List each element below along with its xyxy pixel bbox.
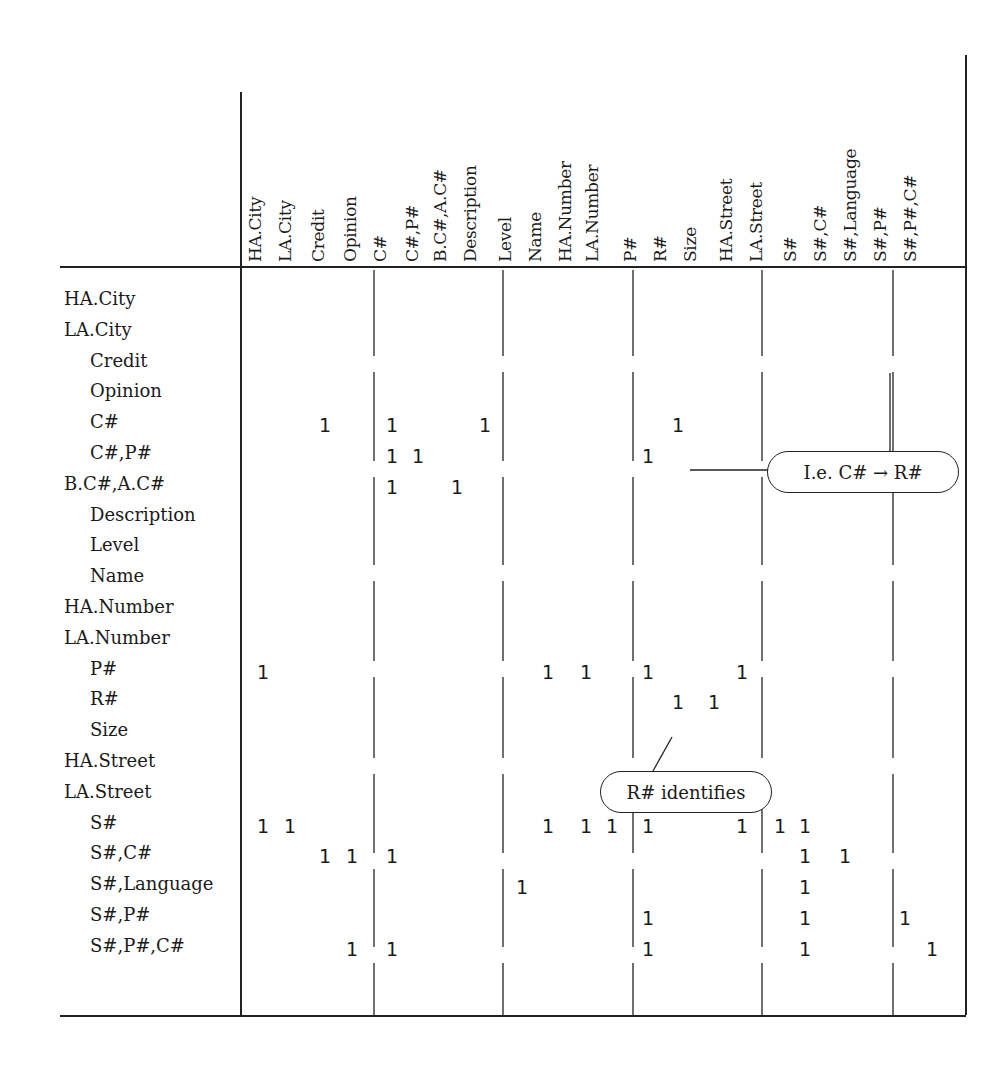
column-header-label: HA.Number: [557, 161, 574, 262]
matrix-cell-one: 1: [736, 816, 748, 835]
matrix-cell-one: 1: [899, 909, 911, 928]
column-header: HA.Street: [712, 0, 740, 262]
matrix-cell-one: 1: [799, 878, 811, 897]
header-bottom-rule: [60, 266, 966, 268]
matrix-cell-one: 1: [451, 477, 463, 496]
column-header: LA.Street: [742, 0, 770, 262]
row-label: HA.City: [64, 290, 135, 308]
column-header: C#: [366, 0, 394, 262]
matrix-cell-one: 1: [319, 416, 331, 435]
matrix-cell-one: 1: [386, 939, 398, 958]
row-label: S#,P#,C#: [90, 937, 185, 955]
matrix-cell-one: 1: [516, 878, 528, 897]
column-header-label: S#,P#,C#: [902, 175, 919, 262]
column-header: LA.City: [271, 0, 299, 262]
row-label: P#: [90, 660, 117, 678]
matrix-cell-one: 1: [580, 816, 592, 835]
matrix-cell-one: 1: [672, 693, 684, 712]
row-label: S#,P#: [90, 906, 150, 924]
matrix-cell-one: 1: [412, 447, 424, 466]
matrix-cell-one: 1: [580, 662, 592, 681]
matrix-cell-one: 1: [346, 939, 358, 958]
matrix-cell-one: 1: [319, 847, 331, 866]
column-header-label: S#,C#: [812, 205, 829, 262]
row-label: C#,P#: [90, 444, 152, 462]
row-label: LA.Number: [64, 629, 170, 647]
column-header-label: Credit: [310, 209, 327, 262]
matrix-cell-one: 1: [799, 909, 811, 928]
right-border: [965, 55, 967, 1015]
bottom-rule: [60, 1015, 966, 1017]
matrix-cell-one: 1: [386, 477, 398, 496]
column-header: Opinion: [336, 0, 364, 262]
matrix-cell-one: 1: [284, 816, 296, 835]
column-header-label: LA.Street: [748, 182, 765, 262]
column-header-label: Level: [497, 217, 514, 262]
column-header: S#,C#: [806, 0, 834, 262]
row-label: LA.City: [64, 321, 132, 339]
column-header-label: S#,Language: [842, 149, 859, 262]
column-header-label: Opinion: [342, 196, 359, 262]
matrix-cell-one: 1: [346, 847, 358, 866]
matrix-cell-one: 1: [386, 847, 398, 866]
row-label: HA.Number: [64, 598, 174, 616]
matrix-cell-one: 1: [386, 416, 398, 435]
dependency-matrix: HA.CityLA.CityCreditOpinionC#C#,P#B.C#,A…: [0, 0, 1005, 1068]
column-header: S#: [776, 0, 804, 262]
matrix-cell-one: 1: [257, 662, 269, 681]
row-label: S#,Language: [90, 875, 213, 893]
column-header-label: P#: [622, 237, 639, 262]
column-header-label: S#,P#: [872, 207, 889, 262]
matrix-cell-one: 1: [736, 662, 748, 681]
column-header-label: C#: [372, 235, 389, 262]
column-header: Credit: [304, 0, 332, 262]
row-label: Opinion: [90, 382, 162, 400]
column-header: B.C#,A.C#: [426, 0, 454, 262]
column-header: S#,P#,C#: [896, 0, 924, 262]
matrix-cell-one: 1: [926, 939, 938, 958]
matrix-cell-one: 1: [542, 816, 554, 835]
column-header-label: B.C#,A.C#: [432, 169, 449, 262]
matrix-cell-one: 1: [799, 939, 811, 958]
row-label: Name: [90, 567, 144, 585]
column-header: Level: [491, 0, 519, 262]
column-header-label: S#: [782, 237, 799, 262]
column-header: C#,P#: [398, 0, 426, 262]
column-header: Size: [676, 0, 704, 262]
column-header: P#: [616, 0, 644, 262]
row-label: Description: [90, 506, 196, 524]
column-header-label: R#: [652, 236, 669, 262]
matrix-cell-one: 1: [642, 662, 654, 681]
row-label: S#,C#: [90, 844, 152, 862]
column-header: Name: [521, 0, 549, 262]
column-header-label: LA.City: [277, 200, 294, 262]
row-label: B.C#,A.C#: [64, 475, 165, 493]
matrix-cell-one: 1: [642, 447, 654, 466]
matrix-cell-one: 1: [799, 816, 811, 835]
matrix-cell-one: 1: [542, 662, 554, 681]
column-header-label: C#,P#: [404, 205, 421, 262]
row-label: Credit: [90, 352, 148, 370]
column-header-label: Name: [527, 212, 544, 262]
row-label: LA.Street: [64, 783, 151, 801]
column-header: S#,Language: [836, 0, 864, 262]
row-label: S#: [90, 814, 117, 832]
column-header: R#: [646, 0, 674, 262]
column-header: HA.Number: [551, 0, 579, 262]
matrix-cell-one: 1: [839, 847, 851, 866]
matrix-cell-one: 1: [479, 416, 491, 435]
matrix-cell-one: 1: [672, 416, 684, 435]
matrix-cell-one: 1: [386, 447, 398, 466]
column-header-label: Description: [462, 165, 479, 262]
column-header: HA.City: [241, 0, 269, 262]
column-header: LA.Number: [578, 0, 606, 262]
column-header-label: Size: [682, 227, 699, 262]
matrix-cell-one: 1: [642, 816, 654, 835]
matrix-cell-one: 1: [606, 816, 618, 835]
implies-callout-text: I.e. C# → R#: [804, 462, 923, 483]
matrix-cell-one: 1: [642, 909, 654, 928]
column-header: Description: [456, 0, 484, 262]
row-label: R#: [90, 690, 119, 708]
identifies-callout: R# identifies: [600, 771, 772, 813]
column-header-label: LA.Number: [584, 165, 601, 262]
